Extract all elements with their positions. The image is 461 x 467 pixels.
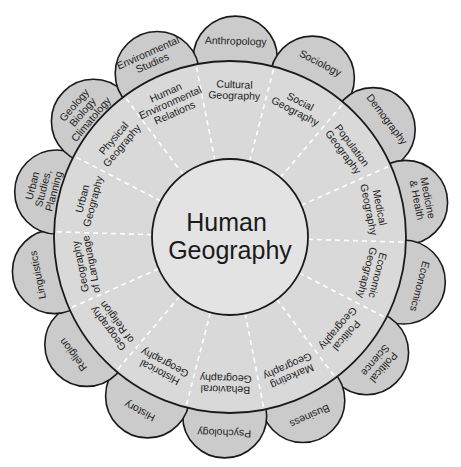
discipline-label-line: Psychology [196,427,251,441]
center-title-line-1: Human [186,208,267,236]
discipline-label: Anthropology [205,34,268,48]
center-title: Human Geography [168,208,292,264]
discipline-label: Psychology [196,427,251,441]
discipline-label-line: Anthropology [205,34,268,48]
center-title-line-2: Geography [168,236,292,264]
subfield-label-line: Geography [199,372,252,386]
subfield-label: BehavioralGeography [199,372,252,397]
human-geography-diagram: CulturalGeographySocialGeographyPopulati… [0,0,461,467]
subfield-label-line: Geography [208,88,261,102]
